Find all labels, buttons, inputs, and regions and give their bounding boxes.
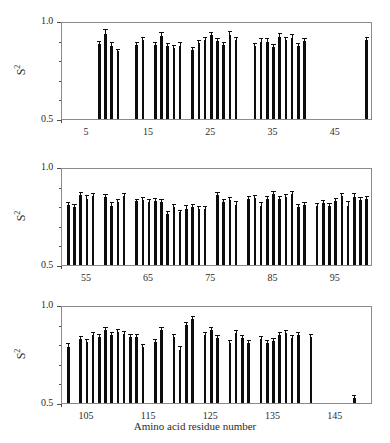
panel-2-y-axis-title: S2 [13, 201, 29, 231]
bar [79, 195, 82, 265]
error-bar [155, 199, 156, 201]
bar [347, 206, 350, 265]
panel-3-plot-frame [61, 306, 372, 404]
bar [204, 335, 207, 403]
bar [142, 347, 145, 403]
bar [210, 330, 213, 403]
error-bar-cap [284, 330, 288, 331]
bar [104, 330, 107, 403]
error-bar [149, 200, 150, 202]
panel-2-plot-frame [61, 168, 372, 266]
error-bar-cap [365, 37, 369, 38]
bar [185, 325, 188, 403]
x-axis-tick-label: 55 [71, 272, 101, 283]
error-bar [279, 197, 280, 199]
bar [204, 209, 207, 265]
error-bar [74, 205, 75, 207]
error-bar [354, 396, 355, 398]
error-bar-cap [222, 199, 226, 200]
x-axis-tick-label: 45 [320, 126, 350, 137]
bar [247, 199, 250, 265]
bar [117, 332, 120, 403]
error-bar-cap [284, 37, 288, 38]
error-bar [130, 335, 131, 337]
x-axis-tick-minor [61, 404, 62, 407]
error-bar-cap [135, 334, 139, 335]
error-bar-cap [365, 196, 369, 197]
bar [198, 209, 201, 265]
bar [160, 202, 163, 265]
error-bar [99, 335, 100, 337]
bar [166, 214, 169, 265]
error-bar-cap [296, 332, 300, 333]
error-bar [93, 194, 94, 196]
error-bar-cap [159, 327, 163, 328]
bar [135, 45, 138, 119]
error-bar [180, 211, 181, 213]
error-bar [261, 337, 262, 339]
y-axis-tick-major [57, 306, 61, 307]
error-bar-cap [116, 329, 120, 330]
error-bar-cap [159, 199, 163, 200]
error-bar [348, 202, 349, 206]
error-bar [117, 330, 118, 332]
bar [254, 46, 257, 119]
error-bar-cap [315, 203, 319, 204]
error-bar-cap [334, 198, 338, 199]
error-bar [167, 212, 168, 214]
error-bar [292, 35, 293, 37]
error-bar-cap [290, 335, 294, 336]
error-bar [155, 340, 156, 342]
error-bar-cap [172, 204, 176, 205]
bar [191, 207, 194, 265]
bar [86, 199, 89, 265]
error-bar [217, 39, 218, 41]
error-bar [173, 46, 174, 48]
error-bar [80, 337, 81, 339]
error-bar [254, 44, 255, 46]
error-bar [161, 200, 162, 202]
error-bar [261, 39, 262, 42]
error-bar [99, 42, 100, 44]
error-bar [180, 347, 181, 349]
error-bar [254, 196, 255, 198]
bar [278, 199, 281, 265]
error-bar [317, 204, 318, 206]
error-bar [236, 202, 237, 204]
error-bar [142, 38, 143, 40]
error-bar [229, 198, 230, 200]
bar [216, 338, 219, 403]
y-axis-title-base: S [14, 215, 28, 222]
error-bar-cap [321, 200, 325, 201]
error-bar-cap [222, 42, 226, 43]
error-bar [117, 50, 118, 52]
figure-order-parameter-plot: 1.00.5515253545S21.00.55565758595S21.00.… [0, 0, 390, 443]
error-bar [198, 41, 199, 43]
y-axis-tick-minor [59, 345, 62, 346]
error-bar [298, 205, 299, 207]
bar [154, 45, 157, 119]
error-bar-cap [346, 201, 350, 202]
error-bar-cap [234, 201, 238, 202]
panel-2-bars [62, 169, 371, 265]
error-bar-cap [302, 38, 306, 39]
error-bar-cap [358, 197, 362, 198]
error-bar [304, 203, 305, 205]
error-bar [124, 332, 125, 334]
y-axis-tick-minor [59, 61, 62, 62]
bar [285, 197, 288, 265]
y-axis-tick-label: 0.5 [27, 113, 53, 124]
bar [92, 335, 95, 403]
bar [222, 45, 225, 119]
y-axis-tick-label: 1.0 [27, 299, 53, 310]
error-bar [285, 331, 286, 333]
bar [285, 40, 288, 119]
bar [266, 199, 269, 265]
error-bar-cap [259, 336, 263, 337]
bar [260, 42, 263, 119]
bar [303, 41, 306, 119]
error-bar-cap [203, 37, 207, 38]
error-bar [298, 333, 299, 335]
error-bar-cap [234, 330, 238, 331]
error-bar [105, 195, 106, 197]
